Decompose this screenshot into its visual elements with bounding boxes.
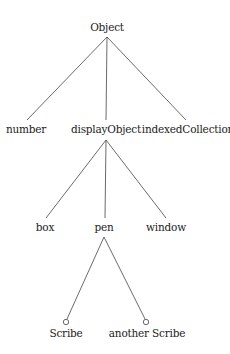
edge-pen-anotherscribe xyxy=(104,237,145,319)
node-pen: pen xyxy=(94,221,113,233)
node-another-scribe: another Scribe xyxy=(109,327,185,339)
node-indexedcollection: indexedCollection xyxy=(142,123,230,135)
node-object: Object xyxy=(90,21,124,33)
instance-circle-anotherscribe xyxy=(143,319,148,324)
instance-circle-scribe xyxy=(63,319,68,324)
node-box: box xyxy=(36,221,54,233)
edge-pen-scribe xyxy=(67,237,104,319)
node-displayobject: displayObject xyxy=(71,123,141,135)
edge-displayobject-box xyxy=(46,140,106,218)
edge-object-number xyxy=(27,37,107,120)
edge-displayobject-window xyxy=(106,140,166,218)
node-window: window xyxy=(146,221,186,233)
node-number: number xyxy=(6,123,46,135)
edge-object-displayobject xyxy=(106,37,107,120)
edge-displayobject-pen xyxy=(105,140,106,218)
node-scribe: Scribe xyxy=(49,327,82,339)
edge-object-indexedcollection xyxy=(107,37,186,120)
tree-edges xyxy=(0,0,230,354)
